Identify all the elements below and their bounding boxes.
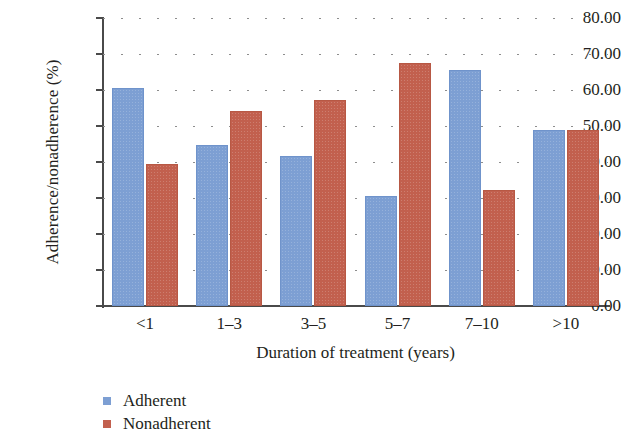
bar-texture xyxy=(231,112,261,305)
y-axis-title: Adherence/nonadherence (%) xyxy=(43,12,63,312)
chart-legend: AdherentNonadherent xyxy=(103,389,403,435)
bar-texture xyxy=(281,157,311,305)
bar-chart-figure: Adherence/nonadherence (%) 0.0010.0020.0… xyxy=(0,0,621,435)
bar-texture xyxy=(400,64,430,305)
bar-texture xyxy=(484,191,514,305)
bar-group xyxy=(187,18,271,306)
bar-texture xyxy=(450,71,480,305)
legend-swatch-nonadherent xyxy=(103,420,111,428)
bar-nonadherent xyxy=(567,130,599,306)
bar-texture xyxy=(366,197,396,305)
bar-group xyxy=(356,18,440,306)
bar-group xyxy=(440,18,524,306)
bar-texture xyxy=(147,165,177,305)
bar-texture xyxy=(315,101,345,305)
bar-texture xyxy=(197,146,227,305)
bar-adherent xyxy=(533,130,565,306)
legend-swatch-adherent xyxy=(103,397,111,405)
bar-nonadherent xyxy=(314,100,346,306)
bar-adherent xyxy=(365,196,397,306)
bar-texture xyxy=(113,89,143,305)
bar-group xyxy=(271,18,355,306)
bar-adherent xyxy=(112,88,144,306)
bar-group xyxy=(103,18,187,306)
x-axis-title: Duration of treatment (years) xyxy=(103,343,608,363)
legend-label: Nonadherent xyxy=(123,415,211,432)
bar-nonadherent xyxy=(399,63,431,306)
bar-nonadherent xyxy=(230,111,262,306)
bar-adherent xyxy=(196,145,228,306)
bar-texture xyxy=(568,131,598,305)
bar-nonadherent xyxy=(146,164,178,306)
bar-adherent xyxy=(449,70,481,306)
plot-area xyxy=(103,18,608,306)
x-axis-tick-label: >10 xyxy=(506,314,621,334)
legend-item-adherent[interactable]: Adherent xyxy=(103,389,403,412)
bar-adherent xyxy=(280,156,312,306)
legend-label: Adherent xyxy=(123,392,186,409)
bar-group xyxy=(524,18,608,306)
bar-nonadherent xyxy=(483,190,515,306)
legend-item-nonadherent[interactable]: Nonadherent xyxy=(103,412,403,435)
bar-texture xyxy=(534,131,564,305)
